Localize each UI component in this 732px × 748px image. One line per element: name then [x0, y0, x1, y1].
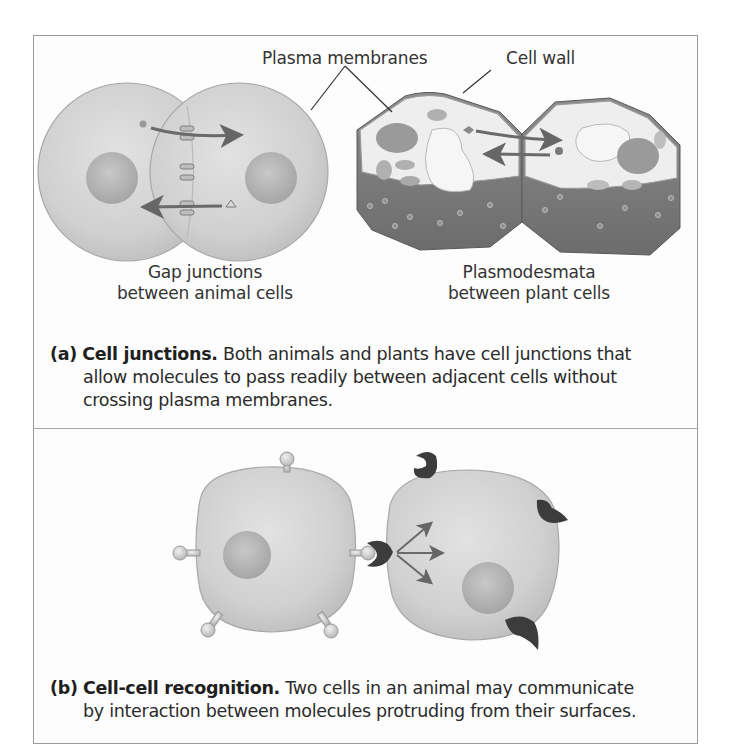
animal-cells-label: Gap junctions between animal cells [80, 262, 330, 304]
animal-label-line2: between animal cells [80, 283, 330, 304]
callout-cell-wall: Cell wall [506, 48, 575, 68]
caption-b-line2: by interaction between molecules protrud… [50, 700, 695, 723]
plant-label-line2: between plant cells [404, 283, 654, 304]
animal-cells-illustration [38, 83, 328, 261]
plant-label-line1: Plasmodesmata [404, 262, 654, 283]
caption-a-line1: Both animals and plants have cell juncti… [218, 344, 631, 364]
caption-panel-a: (a) Cell junctions. Both animals and pla… [50, 343, 690, 412]
caption-panel-b: (b) Cell-cell recognition. Two cells in … [50, 677, 695, 723]
recognition-cells-illustration [173, 452, 568, 650]
plant-cells-label: Plasmodesmata between plant cells [404, 262, 654, 304]
caption-b-tag: (b) [50, 678, 78, 698]
plant-cells-illustration [357, 92, 680, 255]
caption-a-line2: allow molecules to pass readily between … [50, 366, 690, 389]
caption-a-line3: crossing plasma membranes. [50, 389, 690, 412]
caption-b-line1: Two cells in an animal may communicate [280, 678, 634, 698]
animal-label-line1: Gap junctions [80, 262, 330, 283]
caption-a-tag: (a) [50, 344, 77, 364]
caption-a-title: Cell junctions. [82, 344, 218, 364]
caption-b-title: Cell-cell recognition. [83, 678, 280, 698]
callout-plasma-membranes: Plasma membranes [262, 48, 427, 68]
